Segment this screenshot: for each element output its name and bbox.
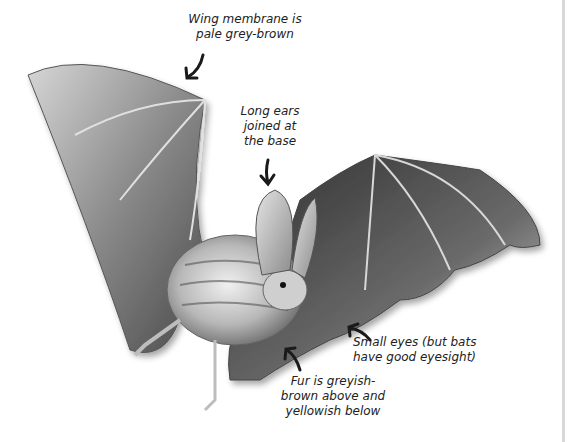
bat-eye — [280, 282, 286, 288]
fur-label: Fur is greyish- brown above and yellowis… — [258, 374, 408, 419]
small-eyes-label: Small eyes (but bats have good eyesight) — [353, 335, 533, 365]
page-edge-divider — [562, 0, 565, 442]
long-ears-label: Long ears joined at the base — [225, 104, 315, 149]
wing-arrow-icon — [188, 55, 203, 77]
bat-diagram: Wing membrane is pale grey-brown Long ea… — [0, 0, 578, 442]
ears-arrow-icon — [267, 160, 269, 183]
bat-ear-left — [256, 190, 293, 275]
wing-membrane-label: Wing membrane is pale grey-brown — [170, 12, 320, 42]
